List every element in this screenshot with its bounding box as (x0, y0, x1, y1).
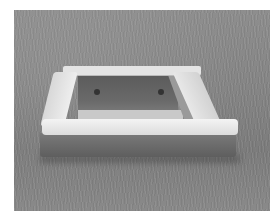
frame-inner-back-wall (78, 73, 178, 113)
frame-left-edge (40, 72, 77, 126)
stain (158, 89, 164, 95)
stain (94, 89, 100, 95)
frame-front-face (40, 133, 236, 157)
frame-front-edge (42, 119, 238, 135)
photo (14, 10, 270, 211)
